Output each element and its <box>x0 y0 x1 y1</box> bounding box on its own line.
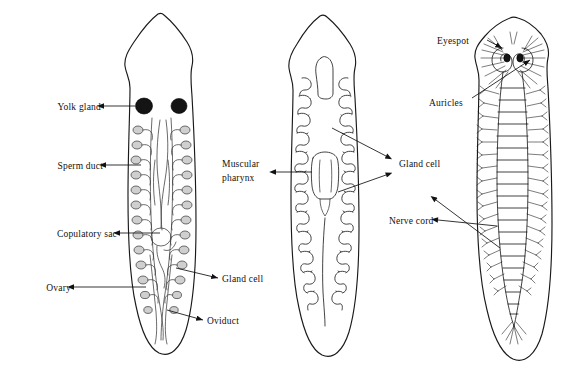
label-oviduct: Oviduct <box>207 316 239 326</box>
label-auricles: Auricles <box>429 98 463 108</box>
eyespot-left <box>504 54 510 62</box>
anterior-gut-trunk <box>316 57 333 99</box>
figure-canvas: Yolk gland Sperm duct Copulatory sac Ova… <box>0 0 583 374</box>
left-worm-reproductive-system <box>125 13 196 354</box>
left-worm-body-outline <box>125 13 196 354</box>
muscular-pharynx <box>311 152 338 199</box>
label-gland-cell-left: Gland cell <box>222 274 263 284</box>
label-sperm-duct: Sperm duct <box>57 161 103 171</box>
middle-worm-digestive-system <box>289 15 359 356</box>
label-eyespot: Eyespot <box>437 36 469 46</box>
label-muscular-pharynx-line1: Muscular <box>222 159 260 169</box>
right-worm-body-outline <box>475 17 552 360</box>
label-nerve-cord: Nerve cord <box>389 216 434 226</box>
planarian-anatomy-figure: Yolk gland Sperm duct Copulatory sac Ova… <box>0 0 583 374</box>
label-yolk-gland: Yolk gland <box>57 102 101 112</box>
label-copulatory-sac: Copulatory sac <box>57 229 117 239</box>
yolk-gland-right-blob <box>171 99 187 114</box>
yolk-gland-left-blob <box>136 98 153 114</box>
label-gland-cell-middle: Gland cell <box>399 159 440 169</box>
right-worm-nervous-system <box>475 17 552 360</box>
label-muscular-pharynx-line2: pharynx <box>222 173 255 183</box>
label-ovary: Ovary <box>46 283 71 293</box>
